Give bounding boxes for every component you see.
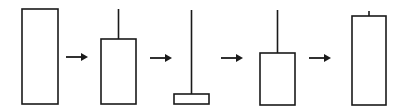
candle-body	[174, 94, 209, 104]
inverted-hammer-candle	[174, 10, 209, 104]
candle-body	[352, 16, 386, 105]
candle-body	[101, 39, 136, 104]
arrow-3-icon	[221, 54, 243, 62]
candle-body	[22, 9, 58, 104]
arrow-1-icon	[66, 53, 88, 61]
candle-body	[260, 53, 295, 105]
tall-body-candle	[22, 9, 58, 104]
tall-body-short-wick-candle	[352, 11, 386, 105]
arrow-4-icon	[309, 54, 331, 62]
upper-shadow-candle	[101, 9, 136, 104]
arrow-2-icon	[150, 54, 172, 62]
candlestick-sequence-diagram	[0, 0, 412, 112]
upper-shadow-candle-2	[260, 10, 295, 105]
